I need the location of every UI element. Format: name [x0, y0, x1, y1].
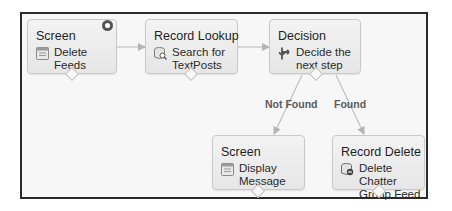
node-screen-display-message[interactable]: Screen DisplayMessage	[212, 135, 305, 190]
record-delete-icon	[341, 163, 354, 176]
node-decision[interactable]: Decision Decide thenext step	[269, 19, 361, 74]
node-type-label: Record Delete	[341, 145, 421, 159]
node-label: Delete Feeds	[54, 46, 116, 72]
edge-label-found: Found	[334, 98, 366, 110]
edge-label-not-found: Not Found	[265, 98, 317, 110]
screen-icon	[221, 163, 234, 176]
node-type-label: Screen	[221, 145, 261, 159]
node-label: Search forTextPosts	[172, 46, 225, 72]
screen-icon	[36, 47, 49, 60]
start-icon	[102, 20, 113, 31]
node-record-delete[interactable]: Record Delete Delete ChatterGroup Feed	[332, 135, 425, 190]
node-label: DisplayMessage	[239, 162, 286, 188]
node-record-lookup[interactable]: Record Lookup Search forTextPosts	[145, 19, 238, 74]
node-label: Decide thenext step	[296, 46, 351, 72]
node-type-label: Screen	[36, 29, 76, 43]
record-lookup-icon	[154, 47, 167, 60]
decision-icon	[278, 47, 291, 60]
node-label: Delete ChatterGroup Feed	[359, 162, 424, 201]
node-type-label: Record Lookup	[154, 29, 239, 43]
node-type-label: Decision	[278, 29, 326, 43]
